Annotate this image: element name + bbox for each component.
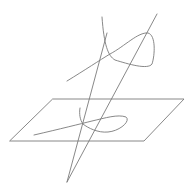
diagram-canvas [0, 0, 196, 191]
ray-through-node [67, 33, 107, 182]
ray-through-loop [67, 14, 157, 182]
space-nodal-curve [67, 17, 154, 81]
